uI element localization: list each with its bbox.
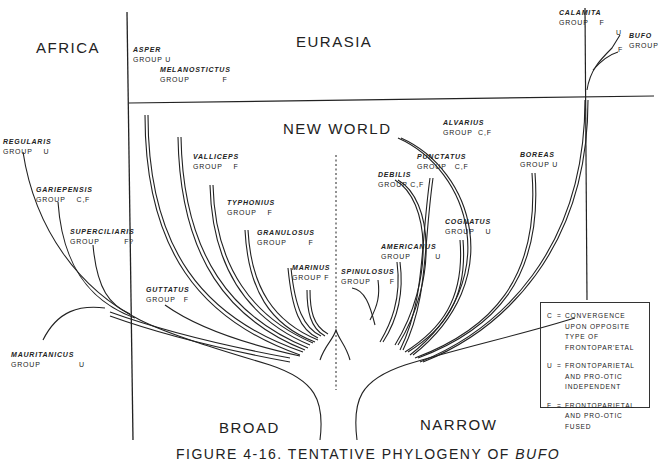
- species-melanostictus: MELANOSTICTUSGROUP F: [160, 65, 231, 85]
- legend-box: C=CONVERGENCE UPON OPPOSITE TYPE OF FRON…: [540, 302, 650, 408]
- species-regularis: REGULARISGROUP U: [3, 137, 51, 157]
- species-asper: ASPERGROUP U: [133, 45, 171, 65]
- species-debilis: DEBILISGROUP C,F: [378, 170, 424, 190]
- species-alvarius: ALVARIUSGROUP C,F: [443, 118, 492, 138]
- species-typhonius: TYPHONIUSGROUP F: [227, 198, 275, 218]
- species-valliceps: VALLICEPSGROUP F: [193, 152, 239, 172]
- legend-entry-c: C=CONVERGENCE UPON OPPOSITE TYPE OF FRON…: [547, 311, 645, 353]
- species-bufo: BUFOGROUP: [629, 31, 659, 51]
- species-punctatus: PUNCTATUSGROUP C,F: [417, 152, 468, 172]
- species-marinus: MARINUSGROUP F: [292, 263, 330, 283]
- legend-entry-u: U=FRONTOPARIETAL AND PRO-OTIC INDEPENDEN…: [547, 361, 645, 393]
- legend-entry-f: F=FRONTOPARIETAL AND PRO-OTIC FUSED: [547, 401, 645, 433]
- species-superciliaris: SUPERCILIARISGROUP F?: [70, 227, 134, 247]
- species-americanus: AMERICANUSGROUP U: [381, 242, 441, 262]
- bufo-branch-f: F: [618, 45, 623, 55]
- region-label-broad: BROAD: [219, 419, 280, 436]
- species-gariepensis: GARIEPENSISGROUP C,F: [36, 185, 93, 205]
- region-label-eurasia: EURASIA: [296, 33, 372, 50]
- figure-caption: FIGURE 4-16. TENTATIVE PHYLOGENY OF BUFO: [176, 446, 560, 462]
- species-calamita: CALAMITAGROUP F: [559, 8, 605, 28]
- trunk: [140, 318, 575, 440]
- africa-branches: [23, 152, 290, 362]
- species-cognatus: COGNATUSGROUP U: [445, 217, 491, 237]
- species-mauritanicus: MAURITANICUSGROUP U: [11, 350, 85, 370]
- species-guttatus: GUTTATUSGROUP F: [146, 285, 189, 305]
- species-granulosus: GRANULOSUSGROUP F: [257, 228, 315, 248]
- region-label-narrow: NARROW: [420, 416, 497, 433]
- bufo-branches: [587, 35, 620, 90]
- region-label-africa: AFRICA: [36, 39, 100, 56]
- species-spinulosus: SPINULOSUSGROUP F: [341, 267, 395, 287]
- bufo-branch-u: U: [616, 28, 622, 38]
- region-label-new-world: NEW WORLD: [283, 120, 392, 137]
- species-boreas: BOREASGROUP U: [520, 150, 558, 170]
